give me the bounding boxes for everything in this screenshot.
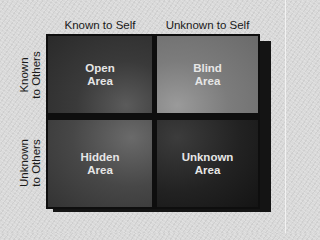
- column-header-known-to-self: Known to Self: [48, 18, 152, 32]
- column-header-unknown-to-self: Unknown to Self: [157, 18, 258, 32]
- quadrant-open-area: Open Area: [48, 36, 152, 113]
- quadrant-label-line2: Area: [182, 164, 234, 177]
- quadrant-unknown-area: Unknown Area: [157, 120, 258, 207]
- quadrant-label-line1: Unknown: [182, 151, 234, 164]
- quadrant-label-line2: Area: [193, 75, 222, 88]
- diagram-frame: Known to Self Unknown to Self Known to O…: [0, 0, 286, 233]
- quadrant-label-line1: Hidden: [81, 151, 120, 164]
- quadrant-hidden-area: Hidden Area: [48, 120, 152, 207]
- row-label-line1: Unknown: [18, 123, 30, 203]
- row-label-unknown-to-others: Unknown to Others: [18, 123, 44, 203]
- quadrant-label-line1: Blind: [193, 62, 222, 75]
- quadrant-blind-area: Blind Area: [157, 36, 258, 113]
- row-label-known-to-others: Known to Others: [18, 35, 44, 115]
- row-label-line2: to Others: [30, 35, 42, 115]
- row-label-line1: Known: [18, 35, 30, 115]
- quadrant-label-line2: Area: [81, 164, 120, 177]
- row-label-line2: to Others: [30, 123, 42, 203]
- quadrant-label-line2: Area: [85, 75, 114, 88]
- quadrant-label-line1: Open: [85, 62, 114, 75]
